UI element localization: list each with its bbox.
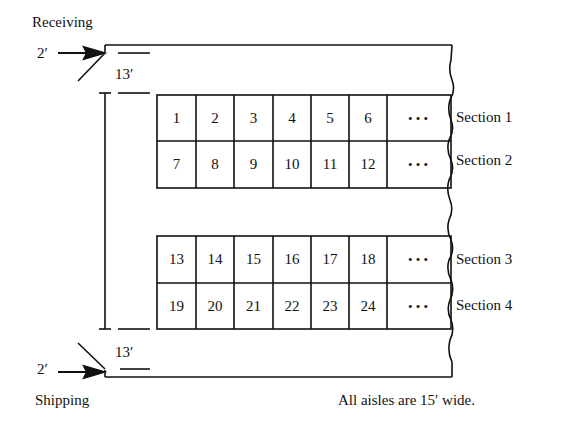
bay-12: 12 <box>349 141 387 188</box>
bay-4: 4 <box>273 95 311 141</box>
continuation-dots: • • • <box>387 236 449 283</box>
bay-22: 22 <box>273 283 311 329</box>
section-4-label: Section 4 <box>456 298 512 313</box>
bay-20: 20 <box>196 283 234 329</box>
receiving-door-width: 2′ <box>37 46 48 61</box>
shipping-door-width: 2′ <box>37 362 48 377</box>
shipping-arrow-icon <box>84 366 104 378</box>
bay-2: 2 <box>196 95 234 141</box>
bay-13: 13 <box>157 236 196 283</box>
bay-10: 10 <box>273 141 311 188</box>
bay-17: 17 <box>311 236 349 283</box>
section-3-label: Section 3 <box>456 252 512 267</box>
bay-7: 7 <box>157 141 196 188</box>
bay-5: 5 <box>311 95 349 141</box>
top-clearance-label: 13′ <box>115 67 133 82</box>
section-2-label: Section 2 <box>456 153 512 168</box>
shipping-label: Shipping <box>35 393 89 408</box>
shipping-door-swing <box>78 343 105 369</box>
bay-1: 1 <box>157 95 196 141</box>
aisle-width-note: All aisles are 15′ wide. <box>338 393 475 408</box>
bay-24: 24 <box>349 283 387 329</box>
warehouse-layout-drawing <box>0 0 572 426</box>
section-1-label: Section 1 <box>456 110 512 125</box>
continuation-dots: • • • <box>387 283 449 329</box>
bay-18: 18 <box>349 236 387 283</box>
bay-11: 11 <box>311 141 349 188</box>
bay-21: 21 <box>234 283 273 329</box>
bay-15: 15 <box>234 236 273 283</box>
bay-9: 9 <box>234 141 273 188</box>
continuation-dots: • • • <box>387 95 449 141</box>
bay-16: 16 <box>273 236 311 283</box>
bay-19: 19 <box>157 283 196 329</box>
bay-8: 8 <box>196 141 234 188</box>
bay-6: 6 <box>349 95 387 141</box>
bay-14: 14 <box>196 236 234 283</box>
receiving-label: Receiving <box>32 15 93 30</box>
bay-3: 3 <box>234 95 273 141</box>
bottom-clearance-label: 13′ <box>115 345 133 360</box>
bay-23: 23 <box>311 283 349 329</box>
continuation-dots: • • • <box>387 141 449 188</box>
